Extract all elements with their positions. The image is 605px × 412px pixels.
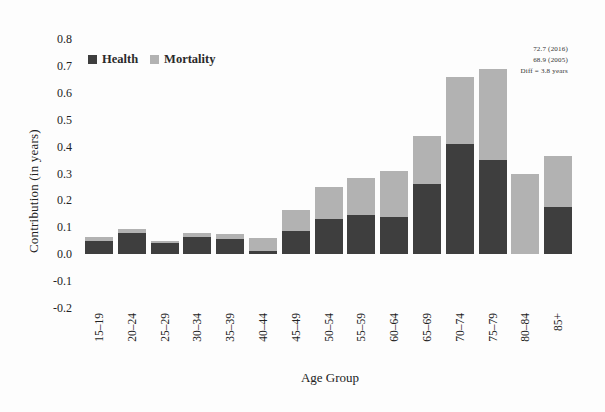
x-tick-label: 55–59 [354,313,368,368]
y-tick-label: 0.4 [30,140,72,154]
x-tick-label: 85+ [551,313,565,368]
bar-65-69 [413,136,441,254]
x-tick-label: 60–64 [387,313,401,368]
mortality-segment [446,77,474,144]
bar-70-74 [446,77,474,255]
mortality-segment [544,156,572,207]
health-segment [413,184,441,254]
health-segment [85,241,113,254]
mortality-segment [315,187,343,219]
bar-55-59 [347,178,375,255]
bar-60-64 [380,171,408,254]
health-segment [282,231,310,254]
y-tick-label: 0.7 [30,59,72,73]
mortality-swatch-icon [150,55,159,64]
bar-25-29 [151,241,179,254]
health-segment [446,144,474,254]
mortality-segment [282,210,310,232]
x-axis-title: Age Group [85,370,575,386]
bar-40-44 [249,238,277,254]
health-segment [315,219,343,254]
annotation-line: Diff = 3.8 years [521,66,568,77]
y-tick-label: 0.6 [30,86,72,100]
mortality-segment [347,178,375,216]
mortality-segment [511,174,539,255]
mortality-segment [479,69,507,160]
y-tick-label: 0.2 [30,193,72,207]
y-tick-label: 0.1 [30,220,72,234]
x-tick-label: 65–69 [420,313,434,368]
health-swatch-icon [88,55,97,64]
x-tick-label: 75–79 [486,313,500,368]
health-segment [380,217,408,255]
y-tick-label: 0.3 [30,167,72,181]
health-segment [216,239,244,254]
x-tick-label: 50–54 [322,313,336,368]
bar-15-19 [85,237,113,254]
mortality-segment [413,136,441,184]
x-tick-label: 45–49 [289,313,303,368]
y-tick-label: 0.0 [30,247,72,261]
y-tick-label: -0.1 [30,274,72,288]
stacked-bar-chart-figure: Contribution (in years) 0.80.70.60.50.40… [0,0,605,412]
annotation-text: 72.7 (2016)68.9 (2005)Diff = 3.8 years [521,44,568,77]
health-segment [183,237,211,254]
legend-item-mortality: Mortality [150,52,215,67]
health-segment [479,160,507,254]
annotation-line: 68.9 (2005) [521,55,568,66]
y-tick-label: -0.2 [30,301,72,315]
bar-50-54 [315,187,343,254]
bar-85plus [544,156,572,254]
x-tick-label: 40–44 [256,313,270,368]
bar-30-34 [183,233,211,255]
annotation-line: 72.7 (2016) [521,44,568,55]
x-tick-label: 15–19 [92,313,106,368]
x-tick-label: 35–39 [223,313,237,368]
y-tick-label: 0.8 [30,32,72,46]
health-segment [151,243,179,254]
x-tick-label: 80–84 [518,313,532,368]
bar-75-79 [479,69,507,255]
bar-20-24 [118,229,146,255]
x-tick-label: 20–24 [125,313,139,368]
bar-80-84 [511,174,539,255]
health-segment [544,207,572,254]
legend-label-health: Health [102,52,138,67]
x-tick-label: 70–74 [453,313,467,368]
health-segment [249,251,277,254]
health-segment [118,233,146,255]
legend-label-mortality: Mortality [164,52,215,67]
bar-45-49 [282,210,310,254]
y-tick-label: 0.5 [30,113,72,127]
bar-35-39 [216,234,244,254]
legend: Health Mortality [88,52,215,67]
x-tick-label: 30–34 [190,313,204,368]
health-segment [347,215,375,254]
legend-item-health: Health [88,52,138,67]
mortality-segment [249,238,277,251]
mortality-segment [380,171,408,217]
x-tick-label: 25–29 [158,313,172,368]
